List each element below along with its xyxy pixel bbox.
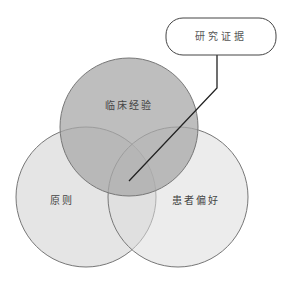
venn-diagram: 临床经验 原则 患者偏好 研究证据 xyxy=(0,0,292,287)
label-clinical-experience: 临床经验 xyxy=(105,99,153,111)
callout-label-research-evidence: 研究证据 xyxy=(195,30,247,42)
circle-clinical-experience xyxy=(60,58,198,196)
label-patient-preference: 患者偏好 xyxy=(172,194,220,206)
label-guidelines: 原则 xyxy=(50,194,74,206)
